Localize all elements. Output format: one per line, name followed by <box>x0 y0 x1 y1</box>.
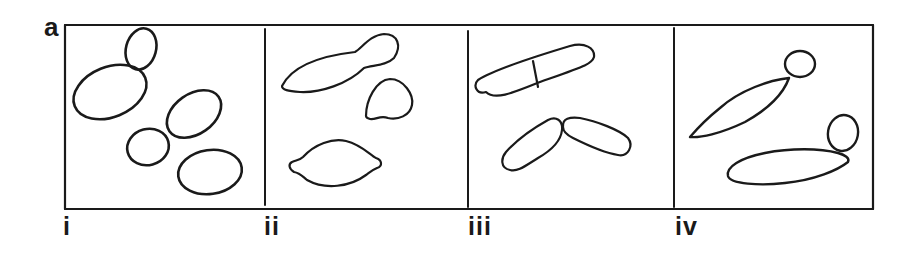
panel-dividers <box>265 28 674 207</box>
panel-iii-cells <box>476 45 631 171</box>
subpanel-label-ii: ii <box>264 214 280 239</box>
subpanel-label-iii: iii <box>468 214 492 239</box>
panel-i-cells <box>65 25 244 198</box>
panel-ii-cells <box>282 34 412 186</box>
subpanel-label-i: i <box>63 214 71 239</box>
cell-shapes-figure <box>0 0 919 253</box>
subpanel-label-iv: iv <box>675 214 698 239</box>
panel-iv-cells <box>690 51 861 184</box>
